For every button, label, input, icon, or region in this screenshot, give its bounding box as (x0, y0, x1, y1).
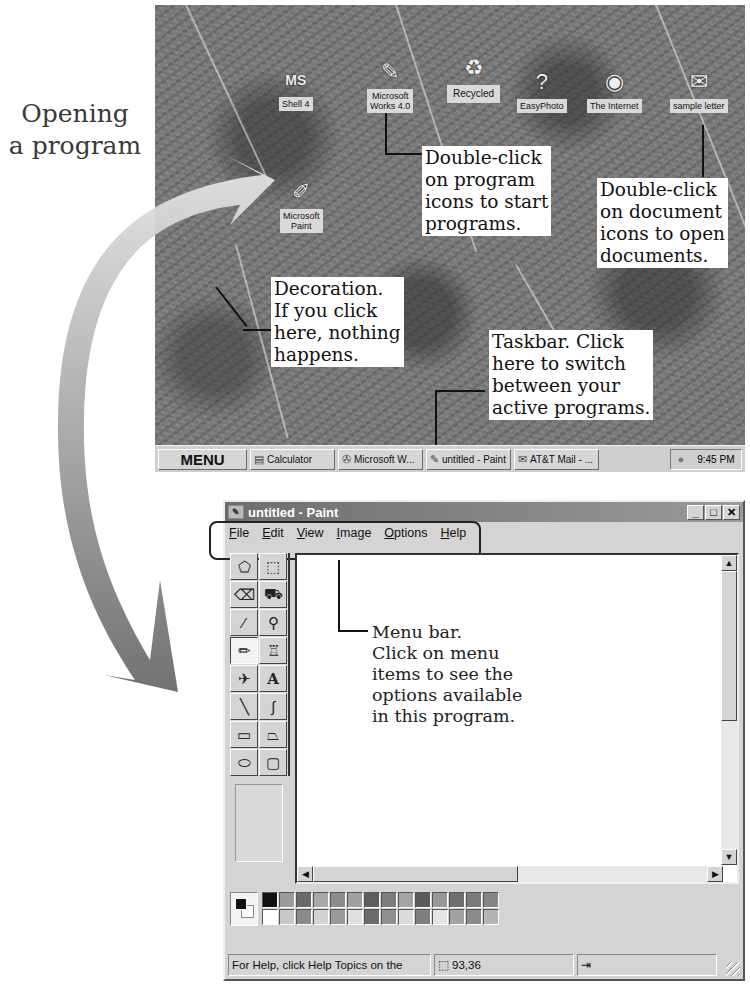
color-swatch[interactable] (466, 909, 482, 925)
desktop-icon-easyphoto[interactable]: ? EasyPhoto (517, 67, 567, 113)
color-swatch[interactable] (364, 909, 380, 925)
leader-line (338, 560, 340, 632)
menu-image[interactable]: Image (337, 526, 372, 540)
tool-options-box[interactable] (235, 784, 283, 862)
color-swatch[interactable] (279, 909, 295, 925)
leader-line (435, 390, 437, 445)
vertical-scrollbar[interactable]: ▲ ▼ (721, 555, 737, 865)
scroll-left-arrow-icon[interactable]: ◀ (297, 866, 313, 882)
menu-file[interactable]: File (229, 526, 249, 540)
color-swatch[interactable] (483, 892, 499, 908)
taskbar-item-att-mail[interactable]: ✉ AT&T Mail - ... (514, 449, 599, 470)
fill-tool[interactable]: ⛟ (259, 581, 287, 608)
color-swatch[interactable] (296, 892, 312, 908)
color-swatch[interactable] (398, 909, 414, 925)
color-swatch[interactable] (432, 909, 448, 925)
horizontal-scrollbar[interactable]: ◀ ▶ (297, 866, 723, 882)
swatch-grid (262, 892, 499, 925)
foreground-color (235, 898, 247, 910)
mail-icon: ✉ (518, 453, 527, 466)
color-swatch[interactable] (381, 892, 397, 908)
scroll-down-arrow-icon[interactable]: ▼ (721, 849, 737, 865)
desktop-icon-sample-letter[interactable]: ✉ sample letter (670, 67, 728, 113)
wallpaper-vein (185, 5, 271, 186)
desktop-icon-microsoft-works[interactable]: ✎ Microsoft Works 4.0 (367, 57, 413, 113)
menu-view[interactable]: View (297, 526, 324, 540)
menu-bar: File Edit View Image Options Help (225, 522, 743, 544)
airbrush-tool[interactable]: ✈ (230, 665, 258, 692)
tray-icon[interactable]: ● (678, 453, 685, 465)
color-swatch[interactable] (262, 909, 278, 925)
menu-edit[interactable]: Edit (262, 526, 284, 540)
rect-select-tool[interactable]: ⬚ (259, 553, 287, 580)
color-swatch[interactable] (415, 892, 431, 908)
desktop-icon-the-internet[interactable]: ◉ The Internet (587, 67, 642, 113)
color-swatch[interactable] (279, 892, 295, 908)
eraser-tool[interactable]: ⌫ (230, 581, 258, 608)
color-swatch[interactable] (330, 909, 346, 925)
taskbar-item-microsoft-works[interactable]: ✇ Microsoft W... (338, 449, 423, 470)
color-swatch[interactable] (347, 909, 363, 925)
brush-tool[interactable]: ♖ (259, 637, 287, 664)
recycle-bin-icon: ♻ (459, 53, 489, 83)
minimize-button[interactable]: _ (687, 505, 704, 520)
color-swatch[interactable] (398, 892, 414, 908)
color-swatch[interactable] (432, 892, 448, 908)
pick-color-tool[interactable]: ⁄ (230, 609, 258, 636)
scroll-right-arrow-icon[interactable]: ▶ (707, 866, 723, 882)
color-swatch[interactable] (347, 892, 363, 908)
taskbar-item-calculator[interactable]: ▤ Calculator (250, 449, 335, 470)
horizontal-scroll-thumb[interactable] (313, 866, 518, 882)
menu-options[interactable]: Options (384, 526, 427, 540)
vertical-scroll-thumb[interactable] (721, 571, 737, 721)
callout-program-icons: Double-click on program icons to start p… (422, 146, 551, 236)
color-swatch[interactable] (313, 892, 329, 908)
pencil-tool[interactable]: ✏ (230, 637, 258, 664)
resize-grip[interactable] (726, 962, 740, 976)
color-swatch[interactable] (449, 909, 465, 925)
desktop-icon-microsoft-paint[interactable]: ✐ Microsoft Paint (280, 177, 323, 233)
color-swatch[interactable] (296, 909, 312, 925)
color-swatch[interactable] (313, 909, 329, 925)
taskbar-item-paint[interactable]: ✎ untitled - Paint (426, 449, 511, 470)
scroll-up-arrow-icon[interactable]: ▲ (721, 555, 737, 571)
toolbox: ⬠ ⬚ ⌫ ⛟ ⁄ ⚲ ✏ ♖ ✈ A ╲ ∫ ▭ ⏢ ⬭ ▢ (230, 553, 290, 862)
polygon-tool[interactable]: ⏢ (259, 721, 287, 748)
start-menu-label: MENU (180, 451, 224, 468)
rectangle-tool[interactable]: ▭ (230, 721, 258, 748)
status-position: ⬚ 93,36 (434, 954, 574, 976)
icon-label: The Internet (587, 99, 642, 113)
menu-help[interactable]: Help (440, 526, 466, 540)
desktop[interactable]: MS Shell 4 ✎ Microsoft Works 4.0 ♻ Recyc… (155, 5, 745, 445)
color-swatch[interactable] (262, 892, 278, 908)
text-tool[interactable]: A (259, 665, 287, 692)
color-swatch[interactable] (466, 892, 482, 908)
selection-size-icon: ⇥ (581, 958, 591, 972)
title-bar[interactable]: ✎ untitled - Paint _ □ ✕ (225, 502, 743, 522)
start-menu-button[interactable]: MENU (158, 449, 247, 470)
color-swatch[interactable] (364, 892, 380, 908)
close-button[interactable]: ✕ (723, 505, 740, 520)
line-tool[interactable]: ╲ (230, 693, 258, 720)
task-label: Calculator (267, 454, 312, 465)
paint-app-icon[interactable]: ✎ (228, 505, 244, 519)
status-help-text: For Help, click Help Topics on the (228, 954, 431, 976)
color-swatch[interactable] (449, 892, 465, 908)
status-selection-size: ⇥ (577, 954, 717, 976)
color-swatch[interactable] (483, 909, 499, 925)
curve-tool[interactable]: ∫ (259, 693, 287, 720)
maximize-button[interactable]: □ (705, 505, 722, 520)
clock[interactable]: 9:45 PM (697, 454, 734, 465)
color-swatch[interactable] (330, 892, 346, 908)
desktop-icon-recycled[interactable]: ♻ Recycled (447, 53, 500, 103)
free-form-select-tool[interactable]: ⬠ (230, 553, 258, 580)
ellipse-tool[interactable]: ⬭ (230, 749, 258, 776)
rounded-rectangle-tool[interactable]: ▢ (259, 749, 287, 776)
color-swatch[interactable] (415, 909, 431, 925)
leader-line (385, 113, 387, 155)
icon-label: sample letter (670, 99, 728, 113)
color-swatch[interactable] (381, 909, 397, 925)
desktop-icon-shell[interactable]: MS Shell 4 (279, 65, 313, 111)
works-icon: ✎ (375, 57, 405, 87)
magnifier-tool[interactable]: ⚲ (259, 609, 287, 636)
